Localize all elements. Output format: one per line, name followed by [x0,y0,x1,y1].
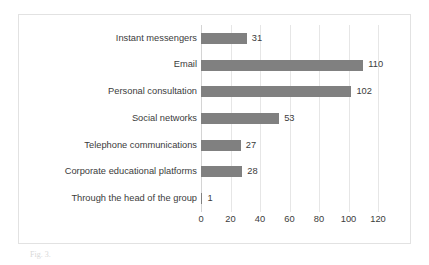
category-label: Telephone communications [0,141,197,150]
bar-value-label: 27 [246,141,256,150]
x-axis-tick-labels: 020406080100120 [19,215,412,231]
bar-group: 31 [201,25,262,52]
bar-value-label: 31 [252,34,262,43]
bar[interactable] [201,113,279,124]
bar-row: Social networks53 [19,105,412,132]
x-tick-label-40: 40 [255,215,265,224]
bar-group: 27 [201,132,256,159]
bar-row: Email110 [19,52,412,79]
bar[interactable] [201,140,241,151]
x-tick-label-120: 120 [370,215,386,224]
plot-area: Instant messengers31Email110Personal con… [19,15,412,245]
bar[interactable] [201,86,351,97]
category-label: Through the head of the group [0,194,197,203]
x-tick-label-20: 20 [225,215,235,224]
bar-value-label: 102 [356,87,372,96]
category-label: Corporate educational platforms [0,167,197,176]
bar-group: 102 [201,78,372,105]
x-tick-label-80: 80 [314,215,324,224]
category-label: Email [0,60,197,69]
bar-value-label: 1 [207,194,212,203]
bar-group: 110 [201,52,383,79]
bar-value-label: 110 [368,60,383,69]
bar[interactable] [201,33,247,44]
x-tick-label-0: 0 [198,215,203,224]
figure-caption: Fig. 3. [30,250,51,259]
bar-row: Personal consultation102 [19,78,412,105]
bar-row: Through the head of the group1 [19,185,412,212]
bar-row: Corporate educational platforms28 [19,159,412,186]
bar-value-label: 53 [284,114,294,123]
category-label: Personal consultation [0,87,197,96]
bar[interactable] [201,60,363,71]
bar-group: 1 [201,185,213,212]
bar-group: 28 [201,159,258,186]
bar-value-label: 28 [247,167,257,176]
x-tick-label-60: 60 [284,215,294,224]
bar-row: Instant messengers31 [19,25,412,52]
bar[interactable] [201,166,242,177]
bar-group: 53 [201,105,295,132]
bar-rows: Instant messengers31Email110Personal con… [19,25,412,212]
x-tick-label-100: 100 [341,215,357,224]
chart-frame: Instant messengers31Email110Personal con… [18,14,411,244]
bar[interactable] [201,193,202,204]
category-label: Social networks [0,114,197,123]
bar-row: Telephone communications27 [19,132,412,159]
category-label: Instant messengers [0,34,197,43]
